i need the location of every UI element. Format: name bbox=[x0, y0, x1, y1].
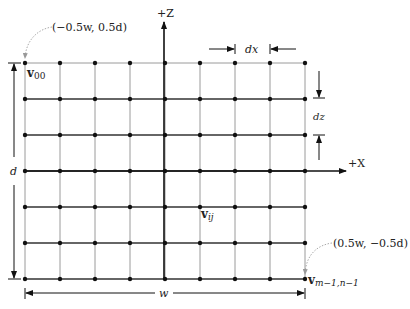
dx-dimension: dx bbox=[209, 43, 296, 56]
grid-vertex bbox=[93, 205, 97, 209]
grid-vertex bbox=[198, 241, 202, 245]
grid-vertex bbox=[23, 241, 27, 245]
diagram-canvas: +Z +X dx dz d bbox=[0, 0, 410, 309]
grid-vertex bbox=[93, 97, 97, 101]
grid-vertex bbox=[128, 205, 132, 209]
grid-diagram: +Z +X dx dz d bbox=[0, 0, 410, 309]
z-axis-label: +Z bbox=[157, 7, 174, 20]
grid-vertex bbox=[198, 169, 202, 173]
grid-vertex bbox=[268, 133, 272, 137]
top-left-callout bbox=[25, 27, 52, 58]
grid-vertex bbox=[23, 277, 27, 281]
grid-vertex bbox=[198, 133, 202, 137]
grid-vertex bbox=[23, 133, 27, 137]
grid-vertex bbox=[58, 61, 62, 65]
bottom-right-coordinate: (0.5w, −0.5d) bbox=[333, 237, 408, 250]
grid-vertex bbox=[23, 61, 27, 65]
grid-vertex bbox=[303, 169, 307, 173]
bottom-right-callout bbox=[305, 243, 332, 274]
grid-vertex bbox=[58, 97, 62, 101]
grid-vertex bbox=[233, 61, 237, 65]
grid-vertex bbox=[58, 169, 62, 173]
grid-vertex bbox=[268, 61, 272, 65]
vertex-v00-label: v00 bbox=[26, 66, 46, 81]
grid-vertex bbox=[303, 133, 307, 137]
grid-vertex bbox=[58, 205, 62, 209]
grid-vertex bbox=[23, 169, 27, 173]
depth-label: d bbox=[10, 165, 17, 178]
width-dimension: w bbox=[25, 287, 305, 300]
grid-vertex bbox=[93, 169, 97, 173]
top-left-coordinate: (−0.5w, 0.5d) bbox=[52, 21, 127, 34]
grid-vertex bbox=[198, 277, 202, 281]
grid-vertex bbox=[128, 241, 132, 245]
grid-vertex bbox=[163, 61, 167, 65]
vertex-vlast-label: vm−1,n−1 bbox=[307, 273, 359, 288]
dx-label: dx bbox=[245, 43, 259, 56]
grid-vertex bbox=[163, 241, 167, 245]
grid-vertex bbox=[23, 205, 27, 209]
grid-vertex bbox=[303, 277, 307, 281]
grid-vertex bbox=[23, 97, 27, 101]
grid-vertex bbox=[163, 169, 167, 173]
grid-vertex bbox=[303, 61, 307, 65]
grid-vertex bbox=[163, 97, 167, 101]
grid-vertex bbox=[303, 97, 307, 101]
grid-vertex bbox=[303, 205, 307, 209]
grid-vertex bbox=[233, 277, 237, 281]
grid-vertex bbox=[93, 277, 97, 281]
grid-vertex bbox=[268, 169, 272, 173]
grid-vertex bbox=[268, 241, 272, 245]
grid-vertex bbox=[93, 61, 97, 65]
grid-vertex bbox=[58, 241, 62, 245]
grid-vertex bbox=[163, 133, 167, 137]
grid-vertex bbox=[128, 169, 132, 173]
grid-vertex bbox=[268, 97, 272, 101]
grid-vertex bbox=[128, 61, 132, 65]
grid-vertex bbox=[93, 133, 97, 137]
grid-vertex bbox=[93, 241, 97, 245]
grid-vertex bbox=[233, 133, 237, 137]
grid-vertex bbox=[58, 133, 62, 137]
dz-dimension: dz bbox=[313, 71, 325, 160]
grid-vertex bbox=[58, 277, 62, 281]
grid-vertex bbox=[128, 277, 132, 281]
grid-vertex bbox=[268, 277, 272, 281]
grid-vertex bbox=[233, 97, 237, 101]
depth-dimension: d bbox=[8, 63, 21, 279]
grid-vertex bbox=[233, 205, 237, 209]
grid-vertex bbox=[128, 133, 132, 137]
dz-label: dz bbox=[313, 111, 325, 122]
vertex-vij-label: vij bbox=[200, 207, 214, 222]
x-axis-label: +X bbox=[348, 157, 365, 170]
grid-vertex bbox=[128, 97, 132, 101]
width-label: w bbox=[159, 287, 169, 300]
grid-vertex bbox=[163, 205, 167, 209]
grid-vertex bbox=[198, 97, 202, 101]
grid-vertex bbox=[303, 241, 307, 245]
grid-vertex bbox=[198, 61, 202, 65]
grid-vertex bbox=[233, 241, 237, 245]
grid-vertex bbox=[233, 169, 237, 173]
grid-vertex bbox=[163, 277, 167, 281]
grid-vertex bbox=[268, 205, 272, 209]
